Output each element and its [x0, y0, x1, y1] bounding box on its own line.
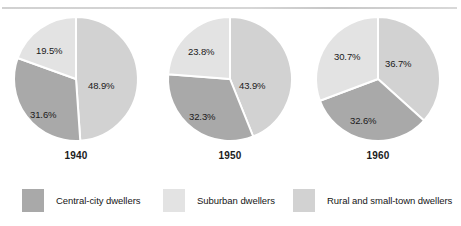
- legend-label-rural: Rural and small-town dwellers: [327, 195, 452, 206]
- year-label-1950: 1950: [160, 150, 300, 161]
- pie-chart-panel-1950: 43.9% 32.3% 23.8% 1950: [160, 14, 300, 179]
- slice-label-1960-suburban: 30.7%: [334, 51, 360, 62]
- legend-item-suburban: Suburban dwellers: [163, 186, 275, 214]
- legend-item-rural: Rural and small-town dwellers: [293, 186, 452, 214]
- pie-chart-figure: 48.9% 31.6% 19.5% 1940 43.9% 32.3% 23.8%…: [0, 0, 461, 226]
- pie-chart-panel-1960: 36.7% 32.6% 30.7% 1960: [308, 14, 448, 179]
- pie-charts-row: 48.9% 31.6% 19.5% 1940 43.9% 32.3% 23.8%…: [0, 14, 461, 179]
- legend-swatch-central-city-icon: [22, 189, 44, 212]
- pie-slice-1940-rural: [76, 17, 138, 141]
- slice-label-1940-central-city: 31.6%: [30, 109, 56, 120]
- slice-label-1940-suburban: 19.5%: [36, 45, 62, 56]
- year-label-1960: 1960: [308, 150, 448, 161]
- slice-label-1950-suburban: 23.8%: [188, 46, 214, 57]
- slice-label-1940-rural: 48.9%: [88, 80, 114, 91]
- slice-label-1960-rural: 36.7%: [385, 58, 411, 69]
- legend-label-suburban: Suburban dwellers: [197, 195, 275, 206]
- slice-label-1960-central-city: 32.6%: [350, 115, 376, 126]
- pie-chart-panel-1940: 48.9% 31.6% 19.5% 1940: [6, 14, 146, 179]
- legend-swatch-suburban-icon: [163, 189, 185, 212]
- pie-1960-svg: [313, 14, 443, 149]
- pie-1940-svg: [11, 14, 141, 149]
- slice-label-1950-rural: 43.9%: [239, 80, 265, 91]
- legend-item-central-city: Central-city dwellers: [22, 186, 140, 214]
- slice-label-1950-central-city: 32.3%: [189, 111, 215, 122]
- year-label-1940: 1940: [6, 150, 146, 161]
- legend-label-central-city: Central-city dwellers: [56, 195, 140, 206]
- top-divider-rule: [2, 7, 457, 9]
- chart-legend: Central-city dwellers Suburban dwellers …: [0, 186, 461, 220]
- pie-1950-svg: [165, 14, 295, 149]
- legend-swatch-rural-icon: [293, 189, 315, 212]
